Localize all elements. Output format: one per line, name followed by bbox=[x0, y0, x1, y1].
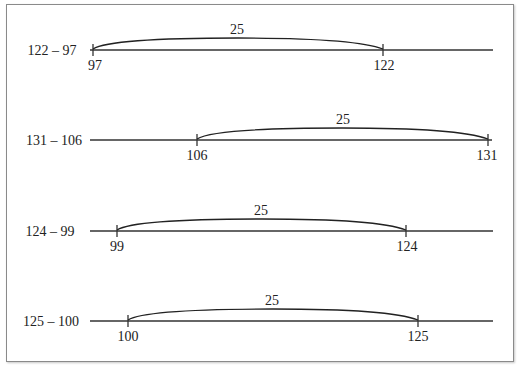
jump-arc bbox=[93, 38, 383, 49]
end-label: 125 bbox=[408, 329, 429, 344]
jump-arc bbox=[197, 128, 488, 139]
end-label: 122 bbox=[374, 58, 395, 73]
start-label: 100 bbox=[118, 329, 139, 344]
start-label: 97 bbox=[88, 58, 102, 73]
end-label: 131 bbox=[477, 148, 498, 163]
start-label: 106 bbox=[187, 148, 208, 163]
difference-label: 25 bbox=[265, 293, 279, 308]
row-expression: 122 – 97 bbox=[28, 43, 77, 58]
difference-label: 25 bbox=[254, 203, 268, 218]
difference-label: 25 bbox=[230, 22, 244, 37]
row-expression: 131 – 106 bbox=[26, 133, 82, 148]
number-line-diagram: 122 – 97 25 97 122 131 – 106 25 106 131 … bbox=[0, 0, 519, 367]
number-line-row: 125 – 100 25 100 125 bbox=[23, 293, 493, 344]
start-label: 99 bbox=[110, 239, 124, 254]
jump-arc bbox=[117, 219, 406, 230]
row-expression: 125 – 100 bbox=[23, 314, 79, 329]
number-line-row: 124 – 99 25 99 124 bbox=[26, 203, 494, 254]
end-label: 124 bbox=[397, 239, 418, 254]
row-expression: 124 – 99 bbox=[26, 224, 75, 239]
number-line-row: 131 – 106 25 106 131 bbox=[26, 112, 498, 163]
jump-arc bbox=[128, 309, 418, 320]
difference-label: 25 bbox=[336, 112, 350, 127]
number-line-row: 122 – 97 25 97 122 bbox=[28, 22, 494, 73]
